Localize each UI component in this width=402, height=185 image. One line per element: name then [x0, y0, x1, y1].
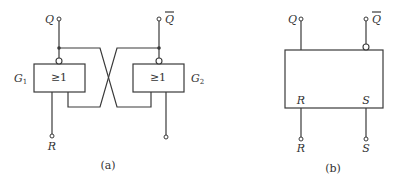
r-label: R	[47, 140, 56, 153]
b-s-label: S	[362, 142, 370, 155]
b-s-terminal	[364, 137, 368, 141]
gate-g2-label: G2	[191, 72, 204, 86]
diagram-a: ≥1 G1 ≥1 G2 Q Q R (a)	[14, 12, 204, 172]
b-r-label: R	[296, 142, 305, 155]
gate-g2-symbol: ≥1	[150, 71, 166, 84]
b-q-label: Q	[288, 13, 297, 26]
b-inner-s-label: S	[362, 94, 370, 107]
r-terminal	[50, 134, 54, 138]
b-q-terminal	[299, 17, 303, 21]
caption-b: (b)	[325, 162, 341, 175]
sr-latch-diagram: ≥1 G1 ≥1 G2 Q Q R (a)	[0, 0, 402, 185]
q-label: Q	[45, 13, 54, 26]
qbar-label: Q	[165, 13, 174, 26]
diagram-b: Q Q R S R S (b)	[285, 12, 383, 175]
g1-inverter-bubble	[56, 58, 62, 64]
b-r-terminal	[299, 137, 303, 141]
b-inner-r-label: R	[296, 94, 305, 107]
g2-inverter-bubble	[156, 58, 162, 64]
b-qbar-terminal	[364, 17, 368, 21]
qbar-terminal	[157, 17, 161, 21]
b-qbar-label: Q	[372, 13, 381, 26]
q-terminal	[57, 17, 61, 21]
gate-g1-symbol: ≥1	[51, 71, 67, 84]
gate-g1-label: G1	[14, 72, 27, 86]
b-qbar-bubble	[363, 44, 369, 50]
s-terminal	[164, 135, 168, 139]
caption-a: (a)	[100, 159, 115, 172]
